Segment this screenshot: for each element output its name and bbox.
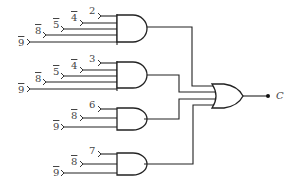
output-node-dot xyxy=(266,94,270,98)
input-label-negated: 5 xyxy=(53,20,59,30)
or-gate xyxy=(212,84,243,108)
input-label: 3 xyxy=(89,54,95,64)
and-gate-2 xyxy=(117,62,147,88)
input-label-negated: 8 xyxy=(35,26,41,36)
and-gate-1 xyxy=(117,15,147,42)
and-to-or-wires xyxy=(144,27,218,164)
input-label: 6 xyxy=(89,100,95,110)
circuit-wires xyxy=(0,0,297,188)
input-label-negated: 9 xyxy=(53,168,59,178)
and-gate-3 xyxy=(117,108,147,130)
input-label-negated: 8 xyxy=(71,111,77,121)
and-gate-4 xyxy=(117,153,147,175)
input-label-negated: 8 xyxy=(71,157,77,167)
input-label-negated: 9 xyxy=(18,38,24,48)
output-label: C xyxy=(276,91,284,101)
input-label-negated: 5 xyxy=(53,67,59,77)
input-label-negated: 8 xyxy=(35,74,41,84)
logic-circuit-diagram: 2 4 5 8 9 3 4 5 8 9 6 8 9 7 8 9 C xyxy=(0,0,297,188)
input-label-negated: 4 xyxy=(71,61,77,71)
input-label-negated: 9 xyxy=(18,85,24,95)
input-label-negated: 4 xyxy=(71,13,77,23)
input-label-negated: 9 xyxy=(53,122,59,132)
input-label: 7 xyxy=(89,146,95,156)
input-label: 2 xyxy=(89,6,95,16)
